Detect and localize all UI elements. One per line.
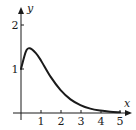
x-tick-label-3: 3 [78,115,85,128]
y-axis-label: y [26,2,34,15]
function-plot: 1 2 3 4 5 1 2 x y [0,0,136,130]
y-axis-arrow-icon [18,7,24,14]
x-tick-label-1: 1 [38,115,45,128]
y-tick-label-1: 1 [12,63,19,76]
x-axis-label: x [124,97,131,110]
x-tick-label-4: 4 [98,115,105,128]
function-curve [21,48,120,112]
x-axis-arrow-icon [125,110,132,116]
y-tick-label-2: 2 [12,19,19,32]
x-tick-label-2: 2 [58,115,65,128]
x-tick-label-5: 5 [117,115,124,128]
